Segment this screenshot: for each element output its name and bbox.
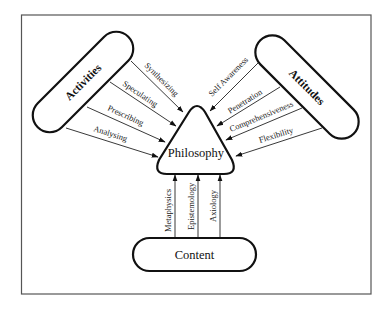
philosophy-label: Philosophy <box>168 146 225 160</box>
edge-label-analysing: Analysing <box>92 123 129 143</box>
node-attitudes: Attitudes <box>248 28 365 145</box>
edge-label-flexibility: Flexibility <box>258 124 296 144</box>
edge-label-speculating: Speculating <box>121 78 160 109</box>
edge-axiology: Axiology <box>208 175 221 238</box>
edge-flexibility: Flexibility <box>236 124 322 156</box>
edge-label-metaphysics: Metaphysics <box>163 189 173 232</box>
edge-analysing: Analysing <box>66 123 158 157</box>
philosophy-concept-diagram: Synthesizing Speculating Prescribing Ana… <box>0 0 391 313</box>
content-label: Content <box>175 248 215 262</box>
edge-label-epistemology: Epistemology <box>186 182 196 230</box>
edge-epistemology: Epistemology <box>186 175 199 238</box>
edge-label-axiology: Axiology <box>208 189 218 222</box>
node-content: Content <box>133 238 256 271</box>
edge-metaphysics: Metaphysics <box>163 175 175 238</box>
node-philosophy: Philosophy <box>157 106 234 174</box>
content-edges: Metaphysics Epistemology Axiology <box>163 175 220 238</box>
edge-label-self-awareness: Self Awareness <box>206 55 250 99</box>
philosophy-triangle <box>157 106 234 174</box>
